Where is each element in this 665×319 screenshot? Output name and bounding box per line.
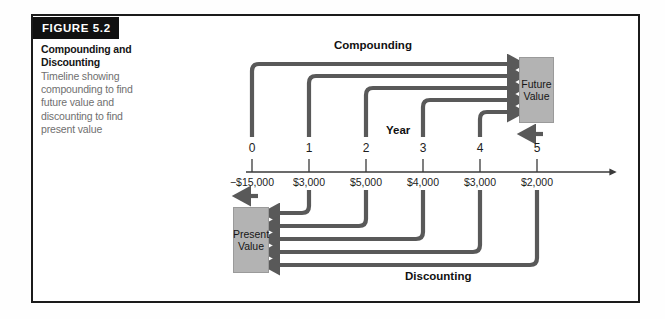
future-value-label-line1: Future [521, 78, 551, 91]
discounting-label: Discounting [405, 270, 471, 282]
compounding-label: Compounding [334, 39, 412, 51]
cash-flow-label-5: $2,000 [500, 176, 574, 188]
year-tick-label-0: 0 [242, 141, 262, 155]
future-value-label-line2: Value [523, 90, 549, 103]
year-tick-label-2: 2 [356, 141, 376, 155]
year-tick-label-5: 5 [527, 141, 547, 155]
figure-number-label: FIGURE 5.2 [42, 22, 111, 34]
year-tick-label-3: 3 [413, 141, 433, 155]
figure-number-banner: FIGURE 5.2 [33, 17, 119, 39]
future-value-box: Future Value [519, 57, 554, 123]
year-tick-label-1: 1 [299, 141, 319, 155]
figure-root: FIGURE 5.2 Compounding and Discounting T… [0, 0, 665, 319]
figure-title: Compounding and Discounting [41, 43, 149, 69]
present-value-label-line2: Value [238, 240, 264, 253]
present-value-box: Present Value [233, 207, 269, 273]
figure-caption: Compounding and Discounting Timeline sho… [41, 43, 149, 136]
figure-description: Timeline showing compounding to find fut… [41, 70, 149, 136]
year-axis-label: Year [386, 124, 410, 136]
year-tick-label-4: 4 [470, 141, 490, 155]
present-value-label-line1: Present [233, 228, 269, 241]
